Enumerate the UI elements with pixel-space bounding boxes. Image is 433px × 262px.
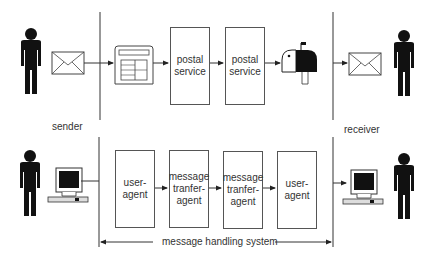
user-agent-box: user- agent [277,151,317,229]
box-label: user- agent [284,178,309,202]
postal-row [21,12,414,120]
receiver-envelope-icon [349,53,381,75]
receiver-computer-icon [343,170,383,204]
electronic-row [20,137,414,247]
receiver-person-icon [394,153,414,219]
receiver-label: receiver [344,124,380,136]
sender-label: sender [52,121,83,133]
box-label: postal service [229,54,261,78]
box-label: message tranfer- agent [169,171,210,207]
sender-envelope-icon [52,52,84,74]
postal-service-box: postal service [170,27,210,105]
sender-person-icon [21,28,41,94]
mailbox-icon [282,42,317,84]
box-label: postal service [174,54,206,78]
message-transfer-agent-box: message tranfer- agent [223,151,263,229]
letter-sorting-icon [115,46,153,84]
system-label: message handling system [162,236,278,248]
sender-person-icon [20,150,40,216]
message-transfer-agent-box: message tranfer- agent [169,150,209,228]
box-label: message tranfer- agent [223,172,264,208]
user-agent-box: user- agent [115,150,155,228]
sender-computer-icon [48,168,88,202]
postal-service-box: postal service [225,27,265,105]
box-label: user- agent [122,177,147,201]
receiver-person-icon [394,30,414,96]
